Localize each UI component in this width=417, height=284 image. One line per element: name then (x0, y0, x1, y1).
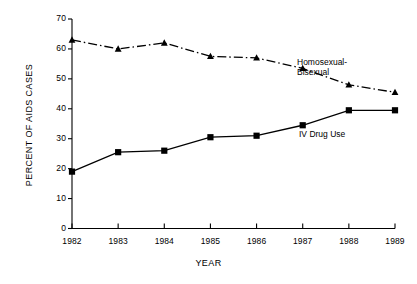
y-tick-label: 30 (44, 134, 66, 143)
data-point-marker (161, 39, 168, 45)
data-point-marker (253, 133, 259, 139)
x-tick-label: 1988 (329, 237, 369, 246)
data-point-marker (207, 134, 213, 140)
x-axis-ticks (72, 224, 395, 229)
x-tick-label: 1985 (190, 237, 230, 246)
data-point-marker (392, 89, 399, 95)
y-tick-label: 70 (44, 14, 66, 23)
x-axis-title: YEAR (0, 258, 417, 268)
series-label-homosexual-bisexual-line1: Homosexual- (297, 57, 347, 67)
y-tick-label: 50 (44, 74, 66, 83)
x-tick-label: 1984 (144, 237, 184, 246)
chart-series-group (69, 36, 399, 174)
x-tick-label: 1986 (237, 237, 277, 246)
data-point-marker (69, 169, 75, 175)
data-point-marker (161, 148, 167, 154)
x-tick-label: 1982 (52, 237, 92, 246)
y-tick-label: 40 (44, 104, 66, 113)
data-point-marker (392, 107, 398, 113)
series-label-homosexual-bisexual: Homosexual- Bisexual (297, 57, 347, 77)
data-point-marker (300, 122, 306, 128)
aids-cases-line-chart: 010203040506070 198219831984198519861987… (0, 0, 417, 284)
y-tick-label: 0 (44, 224, 66, 233)
series-label-iv-drug-use: IV Drug Use (299, 129, 345, 139)
y-axis-title: PERCENT OF AIDS CASES (24, 45, 34, 205)
series-label-homosexual-bisexual-line2: Bisexual (297, 67, 347, 77)
y-axis-ticks (68, 19, 72, 229)
x-tick-label: 1987 (283, 237, 323, 246)
data-point-marker (115, 45, 122, 51)
data-point-marker (115, 149, 121, 155)
data-point-marker (69, 36, 76, 42)
x-tick-label: 1989 (375, 237, 415, 246)
y-tick-label: 10 (44, 194, 66, 203)
y-tick-label: 20 (44, 164, 66, 173)
data-point-marker (346, 107, 352, 113)
series-line-iv-drug-use (72, 110, 395, 171)
x-tick-label: 1983 (98, 237, 138, 246)
y-tick-label: 60 (44, 44, 66, 53)
